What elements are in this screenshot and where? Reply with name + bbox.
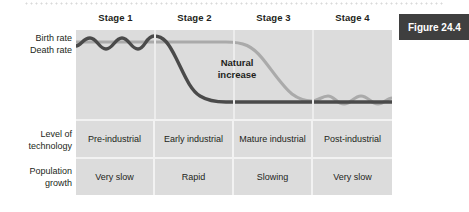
- figure-tag-label: Figure 24.4: [408, 22, 461, 33]
- axis-label-birth-rate: Birth rate: [0, 33, 72, 45]
- stage-header-4: Stage 4: [313, 11, 392, 25]
- table-cell-technology-2: Early industrial: [155, 121, 234, 158]
- demographic-transition-plot: Natural increase: [76, 30, 392, 120]
- table-row-population-growth: Very slow Rapid Slowing Very slow: [76, 159, 392, 195]
- axis-label-rates: Birth rate Death rate: [0, 33, 72, 56]
- diagram-panel: Natural increase Pre-industrial Early in…: [76, 30, 392, 195]
- row-label-population-growth: Population growth: [0, 166, 72, 189]
- natural-increase-line2: increase: [194, 69, 280, 81]
- table-row-technology: Pre-industrial Early industrial Mature i…: [76, 121, 392, 158]
- stage-header-1: Stage 1: [76, 11, 155, 25]
- natural-increase-line1: Natural: [194, 57, 280, 69]
- natural-increase-annotation: Natural increase: [194, 57, 280, 80]
- table-cell-population-4: Very slow: [313, 159, 392, 195]
- row-label-technology-line2: technology: [0, 141, 72, 153]
- table-cell-population-3: Slowing: [234, 159, 313, 195]
- row-label-population-line1: Population: [0, 166, 72, 178]
- row-label-technology: Level of technology: [0, 129, 72, 152]
- stage-header-3: Stage 3: [234, 11, 313, 25]
- figure-tag: Figure 24.4: [399, 14, 469, 40]
- row-label-population-line2: growth: [0, 178, 72, 190]
- table-cell-technology-1: Pre-industrial: [76, 121, 155, 158]
- axis-label-death-rate: Death rate: [0, 45, 72, 57]
- top-dotted-rule: [24, 2, 444, 5]
- row-label-technology-line1: Level of: [0, 129, 72, 141]
- stage-divider-3: [312, 30, 314, 120]
- table-cell-population-2: Rapid: [155, 159, 234, 195]
- table-cell-population-1: Very slow: [76, 159, 155, 195]
- table-cell-technology-4: Post-industrial: [313, 121, 392, 158]
- stage-divider-1: [154, 30, 156, 120]
- stage-header-2: Stage 2: [155, 11, 234, 25]
- table-cell-technology-3: Mature industrial: [234, 121, 313, 158]
